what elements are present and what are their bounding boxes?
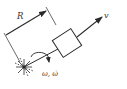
dimension-extension-right [46, 7, 56, 25]
rotation-arrow-icon [31, 52, 49, 62]
rod-line [24, 49, 58, 67]
dimension-extension-left [4, 33, 20, 62]
angular-velocity-label: ω, ω̇ [42, 70, 58, 78]
mass-block [52, 29, 81, 58]
velocity-label: v [104, 11, 109, 20]
radius-dimension-arrow [6, 11, 46, 35]
rotating-mass-diagram: v R ω, ω̇ [0, 0, 127, 89]
velocity-arrow [77, 17, 102, 37]
radius-label: R [16, 11, 24, 21]
